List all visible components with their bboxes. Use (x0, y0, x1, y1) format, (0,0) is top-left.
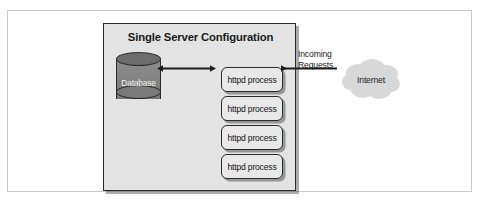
cylinder-top-ellipse (116, 52, 161, 66)
database-label: Database (116, 78, 161, 88)
httpd-process-box: httpd process (221, 67, 283, 92)
httpd-process-label: httpd process (222, 68, 282, 91)
internet-label: Internet (341, 75, 401, 85)
httpd-process-box: httpd process (221, 125, 283, 150)
httpd-process-label: httpd process (222, 97, 282, 120)
incoming-requests-label: Incoming Requests (298, 49, 333, 70)
internet-cloud: Internet (341, 58, 401, 103)
httpd-process-box: httpd process (221, 96, 283, 121)
incoming-requests-line-1: Incoming (298, 49, 333, 60)
httpd-process-label: httpd process (222, 126, 282, 149)
httpd-process-box: httpd process (221, 154, 283, 179)
figure-frame: Single Server Configuration Database htt… (7, 10, 472, 192)
httpd-process-label: httpd process (222, 155, 282, 178)
database-cylinder: Database (116, 52, 161, 106)
incoming-requests-line-2: Requests (298, 60, 333, 71)
panel-title: Single Server Configuration (104, 31, 297, 43)
